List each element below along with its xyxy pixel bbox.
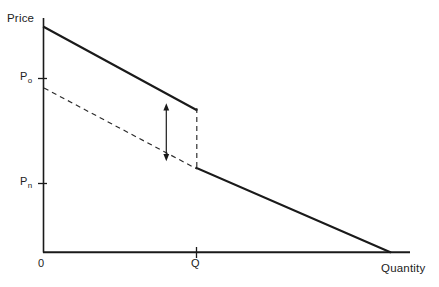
y-tick-label-pn: Pn <box>20 175 32 187</box>
y-tick-label-p0: Po <box>20 70 32 82</box>
shifted-demand-curve <box>44 88 197 169</box>
x-tick-label-q: Q <box>191 257 200 269</box>
price-gap-arrow <box>163 103 169 161</box>
price-gap-arrow-head-down <box>163 154 169 161</box>
p0-base: P <box>20 70 27 82</box>
p0-subscript: o <box>28 76 32 85</box>
demand-curve-lower-segment <box>197 168 391 252</box>
shifted-demand-curve-dashed <box>44 88 197 169</box>
x-axis-label: Quantity <box>381 262 425 274</box>
axes-group <box>43 18 410 253</box>
pn-subscript: n <box>28 181 32 190</box>
origin-label: 0 <box>38 257 44 269</box>
tick-marks-group <box>38 79 197 259</box>
demand-curve-upper-segment <box>44 27 197 110</box>
price-gap-arrow-head-up <box>163 103 169 110</box>
y-axis-label: Price <box>7 12 34 24</box>
demand-curve-solid <box>44 27 390 252</box>
chart-canvas <box>0 0 439 287</box>
pn-base: P <box>20 175 27 187</box>
price-quantity-chart: Price Quantity Po Pn 0 Q <box>0 0 439 287</box>
